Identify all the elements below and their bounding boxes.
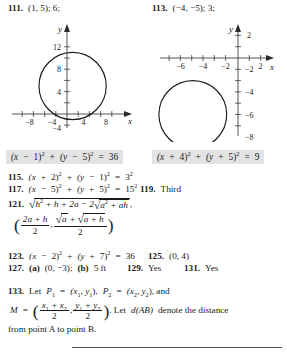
- answer-113-value: (−4, −5); 3;: [173, 3, 215, 13]
- a133-tail2: denote the distance: [158, 305, 228, 315]
- y-axis-label: y: [57, 24, 62, 34]
- a115-rhs-exp: 2: [130, 170, 133, 177]
- a123-e2: 2: [107, 249, 110, 256]
- eq111-exp1: 2: [41, 150, 44, 157]
- eq113-term2: (y: [206, 152, 213, 162]
- a123-t3: (y: [77, 251, 84, 261]
- a121-frac2-r1: a: [61, 213, 68, 224]
- answer-129: 129.Yes: [127, 263, 161, 273]
- a117-rhs-exp: 2: [134, 182, 137, 189]
- a117-e1: 2: [59, 182, 62, 189]
- y-axis-arrow: [64, 24, 70, 32]
- header-answers: 111.(1, 5); 6; 113.(−4, −5); 3;: [0, 3, 287, 15]
- a121-radicand: h2 + h + 2a − 2√a2 + ah: [34, 198, 130, 211]
- a121-a-exp: 2: [105, 198, 108, 205]
- a123-t2: 2): [51, 251, 59, 261]
- a121-frac2-r2: a + h: [83, 213, 105, 224]
- eq113-rhs: 9: [255, 152, 260, 162]
- a121-comma: ,: [130, 199, 132, 209]
- a133-fracx-num: x1 + x2: [40, 300, 69, 310]
- a133-p1-comma: , y: [81, 286, 90, 296]
- answer-131: 131.Yes: [184, 263, 218, 273]
- a127-part-b-label: (b): [77, 263, 88, 273]
- a121-frac2-num: √a + √a + h: [54, 213, 107, 226]
- a117-t3: (y: [77, 184, 84, 194]
- answer-133-line1: 133.LetP1=(x1, y1),P2=(x2, y2), and: [8, 286, 170, 296]
- answer-121-line2: (2a + h2,√a + √a + h2): [14, 213, 114, 237]
- a133-fraction-y: y1 + y22: [73, 300, 102, 322]
- y-tick-label-12: 12: [53, 43, 61, 52]
- a133-eq2: =: [116, 286, 121, 296]
- a133-d-ab: d(AB): [131, 305, 153, 315]
- eq111-op1: −: [23, 152, 28, 162]
- answer-125: 125.(0, 4): [148, 251, 189, 261]
- a121-frac2-den: 2: [54, 226, 107, 237]
- a121-tail: + ah: [110, 200, 128, 210]
- a133-m: M: [10, 305, 18, 315]
- answer-119-value: Third: [161, 184, 181, 194]
- x-axis-label: x: [127, 116, 132, 126]
- answer-133-number: 133.: [8, 286, 24, 296]
- answer-133-line2: M=(x1 + x22,y1 + y22). Letd(AB)denote th…: [10, 300, 228, 322]
- a121-frac2-radical-2: √a + h: [77, 213, 104, 226]
- eq111-term2: (y: [60, 152, 67, 162]
- a121-mid: + h + 2a − 2: [45, 199, 93, 209]
- a133-tail1: . Let: [109, 305, 126, 315]
- a123-plus: +: [67, 251, 72, 261]
- answer-123: 123.(x−2)2+(y+7)2=36: [8, 251, 135, 261]
- equation-box-111: (x−1)2+(y−5)2=36: [6, 150, 123, 164]
- a133-let: Let: [29, 286, 41, 296]
- a133-p2-close: ), and: [149, 286, 170, 296]
- a115-t2: 2): [51, 172, 59, 182]
- a127-part-b-value: 5 ft: [94, 263, 107, 273]
- eq113-exp1: 2: [187, 150, 190, 157]
- a117-t1: (x: [29, 184, 36, 194]
- a117-t4: 5): [99, 184, 107, 194]
- y-tick-label-4: 4: [57, 88, 61, 97]
- a121-h-exp: 2: [40, 197, 43, 204]
- a127-part-a-label: (a): [29, 263, 40, 273]
- eq111-op2: −: [72, 152, 77, 162]
- a133-tail3: from point A to point B.: [8, 324, 96, 334]
- a121-fraction-1: 2a + h2: [21, 214, 50, 236]
- a133-pair-comma: ,: [70, 305, 72, 315]
- a133-fracx-den: 2: [40, 310, 69, 321]
- a133-p1-sub: 1: [52, 291, 55, 298]
- answer-121-line1: 121.√h2 + h + 2a − 2√a2 + ah,: [8, 198, 132, 211]
- answer-115: 115.(x+2)2+(y−1)2=32: [8, 172, 133, 182]
- a123-op1: −: [41, 251, 46, 261]
- a121-frac2-plus: +: [70, 214, 75, 224]
- a115-t1: (x: [29, 172, 36, 182]
- a121-frac1-num: 2a + h: [21, 214, 50, 224]
- x-tick-label--6: −6: [176, 62, 185, 71]
- a117-t2: 5): [51, 184, 59, 194]
- a121-pair-comma: ,: [50, 219, 52, 229]
- a133-paren-open: (: [33, 301, 39, 321]
- a121-frac2-radical-1: √a: [56, 213, 68, 226]
- answer-key-page: 111.(1, 5); 6; 113.(−4, −5); 3;: [0, 0, 287, 353]
- x-axis-arrow: [266, 55, 274, 61]
- a133-fraction-x: x1 + x22: [40, 300, 69, 322]
- graph-113: −6 −4 −2 2 2 −2 −4 −6 −8 x y: [150, 16, 284, 142]
- a115-op1: +: [41, 172, 46, 182]
- eq111-plus: +: [50, 152, 55, 162]
- a133-fracy-num: y1 + y2: [73, 300, 102, 310]
- x-tick-label-2: 2: [259, 62, 263, 71]
- answer-123-number: 123.: [8, 251, 24, 261]
- a133-p1-close: ),: [92, 286, 97, 296]
- a115-op2: −: [89, 172, 94, 182]
- a115-equals: =: [115, 172, 120, 182]
- a123-rhs: 36: [126, 251, 135, 261]
- answer-127-number: 127.: [8, 263, 24, 273]
- a123-op2: +: [90, 251, 95, 261]
- a121-paren-open: (: [14, 215, 20, 235]
- a133-fracy-b-sub: 2: [97, 305, 100, 312]
- answer-115-number: 115.: [8, 172, 24, 182]
- graph-111-svg: −8 −4 4 8 12 8 4 −4 x y: [6, 16, 140, 138]
- answer-117-number: 117.: [8, 184, 24, 194]
- answer-121-number: 121.: [8, 199, 24, 209]
- a133-fracy-den: 2: [73, 310, 102, 321]
- a123-t1: (x: [29, 251, 36, 261]
- answer-131-value: Yes: [205, 263, 218, 273]
- a115-t3: (y: [77, 172, 84, 182]
